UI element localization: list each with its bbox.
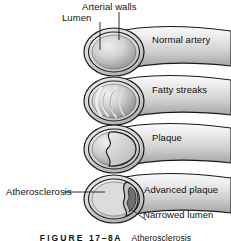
figure-caption: FIGURE 17–8A Atherosclerosis bbox=[0, 227, 231, 241]
caption-title: Atherosclerosis bbox=[132, 233, 192, 241]
lumen-opening-normal bbox=[92, 35, 136, 69]
figure-atherosclerosis: Arterial walls Lumen Normal artery Fatty… bbox=[0, 0, 231, 241]
label-normal-artery: Normal artery bbox=[152, 34, 210, 45]
label-plaque: Plaque bbox=[152, 132, 182, 143]
label-lumen: Lumen bbox=[62, 12, 91, 23]
caption-number: 17–8A bbox=[89, 233, 122, 241]
label-narrowed-lumen: Narrowed lumen bbox=[143, 209, 213, 220]
label-arterial-walls: Arterial walls bbox=[82, 1, 137, 12]
label-advanced-plaque: Advanced plaque bbox=[144, 184, 218, 195]
stage-plaque bbox=[84, 123, 231, 173]
caption-label: FIGURE bbox=[40, 233, 85, 241]
stage-fatty-streaks bbox=[84, 75, 231, 125]
label-atherosclerosis: Atherosclerosis bbox=[6, 186, 72, 197]
label-fatty-streaks: Fatty streaks bbox=[152, 84, 207, 95]
